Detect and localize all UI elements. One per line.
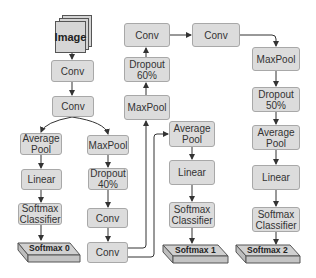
branch0-linear: Linear: [21, 169, 62, 190]
middle-maxpool: MaxPool: [87, 135, 129, 155]
upper-maxpool: MaxPool: [124, 95, 170, 120]
upper-dropout-60: Dropout 60%: [124, 57, 170, 82]
softmax2-output: Softmax 2: [247, 245, 288, 255]
inception-network-diagram: Image Conv Conv Average Pool Linear Soft…: [0, 0, 316, 278]
top-right-conv: Conv: [192, 23, 240, 47]
branch1-softmax-classifier: Softmax Classifier: [169, 202, 215, 228]
edge-conv-upper-maxpool: [128, 121, 146, 248]
input-image: Image: [55, 21, 86, 53]
branch0-average-pool: Average Pool: [20, 133, 62, 155]
branch2-softmax-classifier: Softmax Classifier: [252, 207, 300, 232]
middle-dropout-40: Dropout 40%: [88, 168, 128, 190]
branch1-average-pool: Average Pool: [169, 121, 215, 147]
softmax1-output: Softmax 1: [175, 245, 216, 255]
softmax0-output: Softmax 0: [29, 243, 70, 253]
branch2-average-pool: Average Pool: [252, 125, 300, 150]
branch2-linear: Linear: [252, 165, 300, 190]
middle-conv-a: Conv: [87, 208, 128, 228]
branch2-maxpool: MaxPool: [252, 47, 300, 71]
branch2-dropout-50: Dropout 50%: [252, 87, 300, 112]
middle-conv-b: Conv: [87, 242, 128, 263]
edge-conv2-avgpool0: [41, 117, 72, 132]
edge-conv2-maxpool-mid: [72, 117, 108, 134]
trunk-conv2: Conv: [52, 96, 94, 117]
branch0-softmax-classifier: Softmax Classifier: [18, 203, 62, 225]
edge-conv-avgpool1: [128, 134, 168, 257]
upper-conv: Conv: [124, 23, 170, 47]
branch1-linear: Linear: [169, 160, 215, 185]
trunk-conv1: Conv: [51, 60, 94, 82]
